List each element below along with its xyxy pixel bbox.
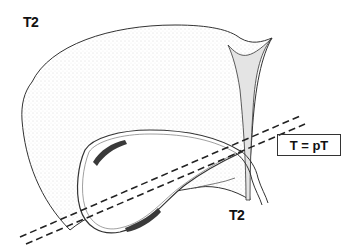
- stage-label-top: T2: [23, 14, 38, 30]
- liver-gallbladder-diagram: [0, 0, 355, 245]
- equation-box: T = pT: [277, 134, 341, 156]
- stage-label-bottom: T2: [229, 207, 244, 223]
